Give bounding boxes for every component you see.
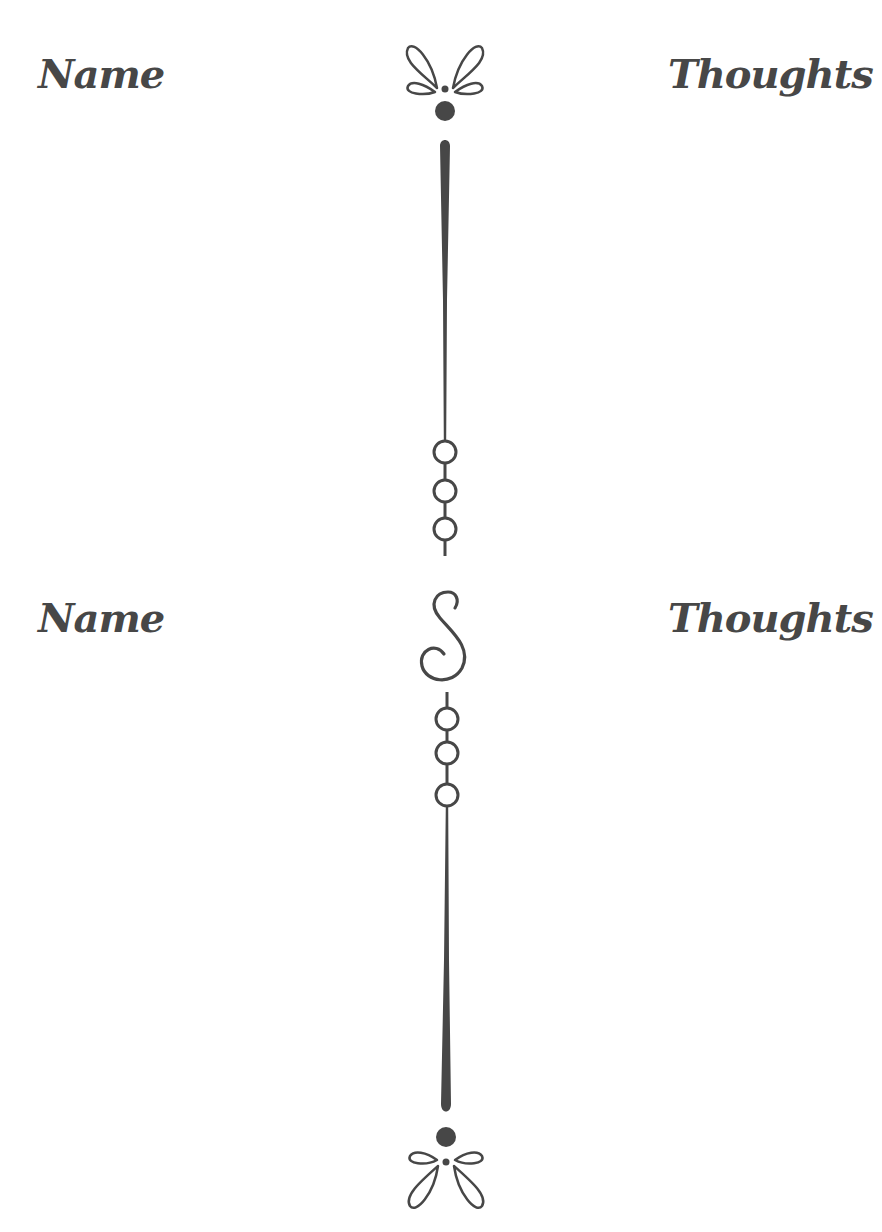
bottom-stem-line [441, 806, 451, 1112]
top-large-dot-icon [435, 101, 455, 121]
bottom-small-dot-icon [443, 1159, 450, 1166]
top-stem-line [440, 140, 450, 440]
bottom-bead-chain-icon [436, 692, 458, 806]
bottom-large-dot-icon [436, 1127, 456, 1147]
top-small-dot-icon [442, 86, 449, 93]
top-bead-chain-icon [434, 441, 456, 556]
s-scroll-icon [421, 592, 464, 680]
center-ornament-divider [0, 0, 882, 1232]
